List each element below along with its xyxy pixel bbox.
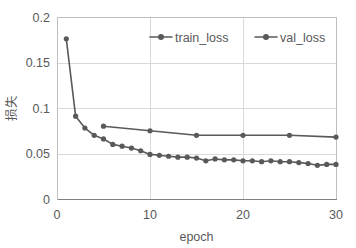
x-tick-label-0: 0	[54, 208, 61, 222]
series-line-val_loss	[104, 126, 337, 137]
datapoint-train_loss-10	[147, 152, 152, 157]
datapoint-train_loss-1	[64, 36, 69, 41]
datapoint-train_loss-16	[203, 158, 208, 163]
chart-canvas: 00.050.10.150.20102030epoch损失train_lossv…	[0, 0, 356, 248]
y-tick-label-0: 0	[43, 193, 50, 207]
loss-curve-chart: 00.050.10.150.20102030epoch损失train_lossv…	[0, 0, 356, 248]
datapoint-train_loss-22	[259, 159, 264, 164]
datapoint-val_loss-10	[147, 128, 152, 133]
datapoint-train_loss-11	[157, 153, 162, 158]
datapoint-train_loss-25	[287, 159, 292, 164]
y-tick-label-0.15: 0.15	[26, 56, 50, 70]
datapoint-train_loss-9	[138, 148, 143, 153]
datapoint-train_loss-5	[101, 136, 106, 141]
datapoint-train_loss-4	[92, 133, 97, 138]
x-tick-label-10: 10	[143, 208, 157, 222]
datapoint-val_loss-30	[333, 135, 338, 140]
datapoint-train_loss-27	[306, 161, 311, 166]
x-axis-title: epoch	[179, 230, 213, 244]
legend-label-train_loss: train_loss	[175, 31, 229, 45]
datapoint-train_loss-2	[73, 114, 78, 119]
y-tick-label-0.2: 0.2	[33, 11, 50, 25]
series-line-train_loss	[66, 39, 336, 165]
x-tick-label-30: 30	[329, 208, 343, 222]
datapoint-train_loss-28	[315, 163, 320, 168]
datapoint-train_loss-15	[194, 155, 199, 160]
y-tick-label-0.05: 0.05	[26, 147, 50, 161]
datapoint-train_loss-13	[175, 155, 180, 160]
legend-marker-val_loss	[263, 34, 269, 40]
datapoint-train_loss-6	[110, 142, 115, 147]
datapoint-train_loss-7	[120, 144, 125, 149]
y-axis-title: 损失	[4, 95, 19, 121]
legend-marker-train_loss	[158, 34, 164, 40]
datapoint-val_loss-20	[240, 133, 245, 138]
datapoint-train_loss-23	[268, 158, 273, 163]
datapoint-train_loss-26	[296, 160, 301, 165]
datapoint-val_loss-15	[194, 133, 199, 138]
datapoint-train_loss-21	[250, 158, 255, 163]
x-tick-label-20: 20	[236, 208, 250, 222]
datapoint-train_loss-20	[240, 158, 245, 163]
datapoint-train_loss-30	[333, 162, 338, 167]
datapoint-val_loss-25	[287, 133, 292, 138]
datapoint-val_loss-5	[101, 124, 106, 129]
y-tick-label-0.1: 0.1	[33, 102, 50, 116]
datapoint-train_loss-19	[231, 157, 236, 162]
datapoint-train_loss-29	[324, 162, 329, 167]
datapoint-train_loss-3	[82, 125, 87, 130]
datapoint-train_loss-18	[222, 157, 227, 162]
datapoint-train_loss-8	[129, 145, 134, 150]
legend-label-val_loss: val_loss	[280, 31, 325, 45]
datapoint-train_loss-14	[185, 155, 190, 160]
datapoint-train_loss-17	[213, 156, 218, 161]
datapoint-train_loss-24	[278, 159, 283, 164]
datapoint-train_loss-12	[166, 154, 171, 159]
